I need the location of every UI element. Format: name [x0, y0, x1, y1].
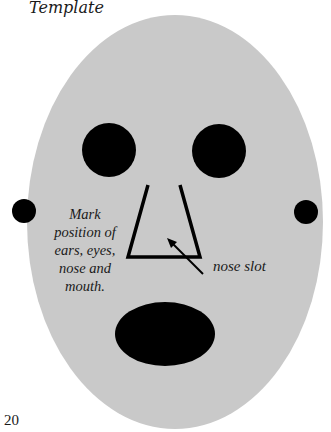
instruction-line: position of: [42, 223, 128, 241]
mouth: [115, 302, 215, 366]
instruction-line: Mark: [42, 205, 128, 223]
left-ear: [12, 199, 36, 223]
right-ear: [294, 200, 318, 224]
instruction-text: Mark position of ears, eyes, nose and mo…: [42, 205, 128, 295]
instruction-line: mouth.: [42, 277, 128, 295]
instruction-line: ears, eyes,: [42, 241, 128, 259]
page-title: Template: [29, 0, 104, 17]
left-eye: [82, 123, 136, 177]
page-number: 20: [4, 412, 19, 429]
instruction-line: nose and: [42, 259, 128, 277]
right-eye: [192, 124, 246, 178]
nose-slot-label: nose slot: [213, 258, 266, 275]
